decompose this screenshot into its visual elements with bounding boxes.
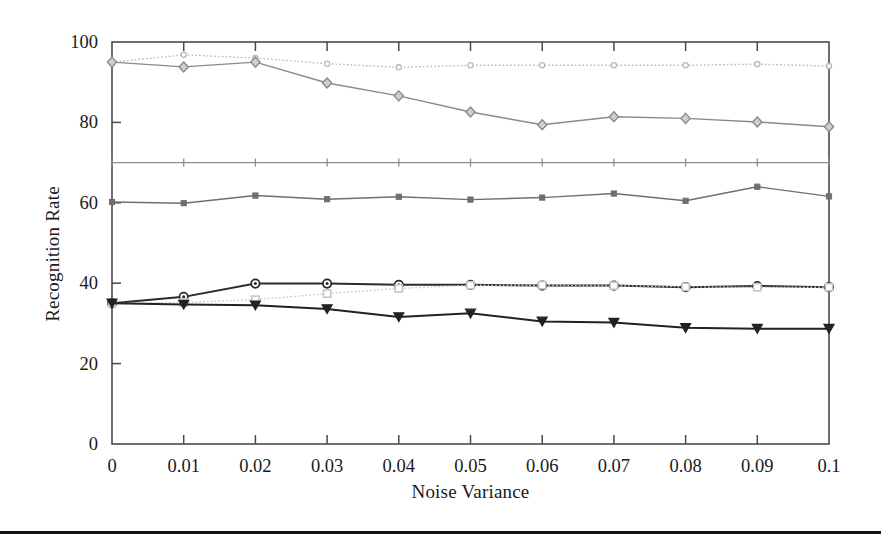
page-bottom-rule	[0, 531, 881, 534]
series-1-top-flat	[109, 52, 831, 70]
x-tick-label: 0	[107, 456, 116, 477]
x-tick-label: 0.08	[669, 456, 701, 477]
x-tick-label: 0.04	[383, 456, 415, 477]
x-tick-label: 0.07	[598, 456, 630, 477]
x-axis-label-wrap: Noise Variance	[112, 481, 829, 503]
data-series-group	[107, 52, 834, 333]
y-tick-label: 100	[30, 32, 98, 53]
x-axis-label: Noise Variance	[412, 481, 530, 502]
y-tick-label: 40	[30, 273, 98, 294]
series-7-triangle-down-dark	[107, 299, 834, 333]
y-axis-label-wrap: Recognition Rate	[42, 139, 64, 369]
x-tick-label: 0.06	[526, 456, 558, 477]
axes-ticks	[112, 42, 757, 444]
x-tick-label: 0.1	[817, 456, 840, 477]
series-3-flat-70	[112, 159, 829, 167]
figure: Recognition Rate Noise Variance 02040608…	[0, 0, 881, 540]
x-tick-label: 0.01	[168, 456, 200, 477]
x-tick-label: 0.09	[741, 456, 773, 477]
y-tick-label: 80	[30, 112, 98, 133]
y-tick-label: 0	[30, 434, 98, 455]
series-4-mid-60	[109, 184, 831, 206]
x-tick-label: 0.03	[311, 456, 343, 477]
axes-frame	[112, 42, 829, 444]
x-tick-label: 0.05	[454, 456, 486, 477]
series-6-square-light	[108, 282, 832, 307]
y-tick-label: 20	[30, 353, 98, 374]
y-tick-label: 60	[30, 192, 98, 213]
x-tick-label: 0.02	[239, 456, 271, 477]
